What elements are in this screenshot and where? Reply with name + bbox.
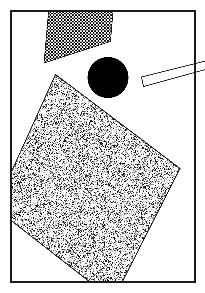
figure-root: Abstract geometric composition	[0, 0, 205, 293]
abstract-shapes-canvas	[0, 0, 205, 293]
